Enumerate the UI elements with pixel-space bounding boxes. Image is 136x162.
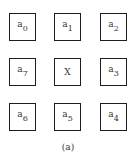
figure-caption: (a) (0, 142, 136, 152)
label-base: a (62, 109, 67, 119)
cell-a7: a7 (9, 58, 36, 86)
label-base: a (108, 64, 113, 74)
cell-a2: a2 (100, 13, 127, 41)
cell-label-a0: a0 (10, 19, 35, 30)
cell-a0: a0 (9, 13, 36, 41)
label-subscript: 7 (23, 69, 28, 78)
label-subscript: 0 (23, 24, 28, 33)
label-base: a (17, 19, 22, 29)
cell-label-a6: a6 (10, 109, 35, 120)
label-base: a (17, 109, 22, 119)
cell-a5: a5 (54, 103, 81, 131)
cell-label-a3: a3 (101, 64, 126, 75)
label-base: X (64, 67, 70, 77)
label-subscript: 5 (68, 114, 73, 123)
label-subscript: 3 (114, 69, 119, 78)
cell-label-a7: a7 (10, 64, 35, 75)
label-base: a (108, 109, 113, 119)
label-subscript: 1 (68, 24, 73, 33)
label-subscript: 2 (114, 24, 119, 33)
cell-label-a1: a1 (55, 19, 80, 30)
cell-label-a4: a4 (101, 109, 126, 120)
cell-label-a2: a2 (101, 19, 126, 30)
cell-center-x: X (54, 58, 81, 86)
cell-label-a5: a5 (55, 109, 80, 120)
cell-label-x: X (55, 67, 80, 77)
label-subscript: 4 (114, 114, 119, 123)
cell-a1: a1 (54, 13, 81, 41)
cell-a3: a3 (100, 58, 127, 86)
cell-a6: a6 (9, 103, 36, 131)
cell-a4: a4 (100, 103, 127, 131)
label-base: a (17, 64, 22, 74)
label-base: a (62, 19, 67, 29)
label-subscript: 6 (23, 114, 28, 123)
label-base: a (108, 19, 113, 29)
